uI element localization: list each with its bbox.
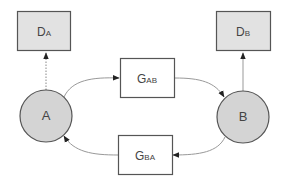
edge-gab-to-b	[175, 78, 224, 97]
generator-gab-sub: AB	[146, 76, 157, 85]
edge-a-to-gab	[64, 78, 119, 97]
generator-gba-sub: BA	[144, 153, 155, 162]
node-a: A	[20, 90, 72, 142]
data-box-db-main: D	[236, 25, 245, 39]
node-b: B	[217, 91, 269, 143]
node-b-label: B	[239, 109, 248, 124]
data-box-da-main: D	[37, 25, 46, 39]
data-box-da: DA	[18, 12, 71, 51]
generator-gab-main: G	[137, 72, 146, 86]
data-box-db: DB	[217, 12, 271, 51]
edge-gba-to-a	[64, 136, 118, 155]
cycle-diagram: DA DB GAB GBA A B	[0, 0, 285, 186]
generator-gab: GAB	[121, 59, 175, 98]
edge-b-to-gba	[173, 137, 225, 155]
data-box-db-sub: B	[245, 29, 250, 38]
data-box-da-sub: A	[46, 29, 52, 38]
generator-gba-main: G	[135, 149, 144, 163]
generator-gba: GBA	[119, 136, 173, 175]
node-a-label: A	[42, 108, 51, 123]
